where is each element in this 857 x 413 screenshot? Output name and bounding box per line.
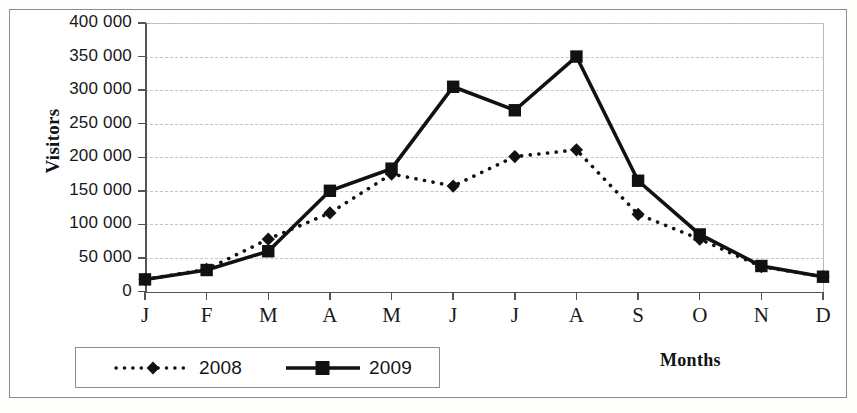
y-tick-label-text: 400 000 [69, 12, 132, 32]
x-tick-mark [144, 292, 145, 300]
y-tick-label-text: 0 [122, 281, 132, 301]
y-tick-label-text: 200 000 [69, 146, 132, 166]
gridline [145, 90, 824, 91]
y-tick-mark [138, 123, 146, 124]
x-tick-mark [514, 292, 515, 300]
x-tick-label-june: J [433, 303, 473, 328]
x-axis-title: Months [660, 350, 721, 371]
y-tick-label-text: 50 000 [79, 247, 132, 267]
y-tick-mark [138, 22, 146, 23]
x-tick-mark [391, 292, 392, 300]
x-tick-mark [329, 292, 330, 300]
legend-swatch-2009-solid-square [284, 358, 362, 378]
legend-label-2008: 2008 [199, 357, 242, 379]
x-tick-label-july: J [495, 303, 535, 328]
x-tick-label-october: O [680, 303, 720, 328]
x-tick-mark [822, 292, 823, 300]
y-axis-line [145, 23, 147, 293]
legend-entry-2009[interactable]: 2009 [284, 355, 412, 381]
y-tick-mark [138, 157, 146, 158]
x-tick-mark [452, 292, 453, 300]
y-tick-label-text: 300 000 [69, 79, 132, 99]
x-axis-line [145, 292, 824, 294]
legend-entry-2008[interactable]: 2008 [114, 355, 242, 381]
x-tick-label-december: D [803, 303, 843, 328]
y-tick-label: 0 [40, 281, 132, 301]
gridline [145, 157, 824, 158]
y-axis-title: Visitors [42, 81, 64, 201]
gridline [145, 224, 824, 225]
x-tick-label-april: A [310, 303, 350, 328]
chart-figure: 050 000100 000150 000200 000250 000300 0… [0, 0, 857, 413]
y-tick-mark [138, 257, 146, 258]
x-tick-mark [576, 292, 577, 300]
chart-legend: 2008 2009 [75, 347, 440, 388]
gridline [145, 191, 824, 192]
x-tick-mark [761, 292, 762, 300]
y-tick-label-text: 100 000 [69, 213, 132, 233]
y-tick-label: 400 000 [40, 12, 132, 32]
y-tick-label-text: 350 000 [69, 46, 132, 66]
x-tick-label-may: M [372, 303, 412, 328]
legend-swatch-2008-dotted-diamond [114, 358, 192, 378]
y-tick-label: 350 000 [40, 46, 132, 66]
y-tick-label-text: 250 000 [69, 113, 132, 133]
y-tick-mark [138, 224, 146, 225]
y-tick-mark [138, 89, 146, 90]
figure-border [9, 9, 847, 398]
x-tick-label-september: S [618, 303, 658, 328]
x-tick-mark [206, 292, 207, 300]
gridline [145, 258, 824, 259]
y-tick-mark [138, 190, 146, 191]
y-tick-label: 100 000 [40, 213, 132, 233]
x-tick-label-february: F [187, 303, 227, 328]
x-tick-mark [268, 292, 269, 300]
gridline [145, 23, 824, 24]
y-tick-label: 50 000 [40, 247, 132, 267]
y-tick-label-text: 150 000 [69, 180, 132, 200]
y-tick-mark [138, 56, 146, 57]
x-tick-label-march: M [248, 303, 288, 328]
x-tick-mark [637, 292, 638, 300]
x-tick-label-november: N [741, 303, 781, 328]
gridline [145, 124, 824, 125]
x-tick-label-january: J [125, 303, 165, 328]
gridline [145, 57, 824, 58]
legend-label-2009: 2009 [369, 357, 412, 379]
x-tick-label-august: A [556, 303, 596, 328]
x-tick-mark [699, 292, 700, 300]
